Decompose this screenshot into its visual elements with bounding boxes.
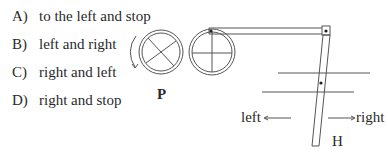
pivot-dot bbox=[324, 29, 327, 32]
pivot-dot bbox=[209, 29, 212, 32]
wheel-p-label: P bbox=[157, 86, 166, 103]
wheel-2 bbox=[189, 29, 235, 75]
rod-h bbox=[312, 35, 330, 146]
mechanism-diagram bbox=[0, 0, 388, 155]
right-label: right bbox=[356, 109, 384, 126]
wheel-p bbox=[139, 30, 183, 74]
rod-h-label: H bbox=[332, 133, 343, 150]
left-label: left bbox=[241, 109, 261, 126]
pivot-dot bbox=[319, 81, 322, 84]
rotation-arrowhead-icon bbox=[132, 64, 138, 68]
rotation-arrow-icon bbox=[130, 36, 136, 67]
